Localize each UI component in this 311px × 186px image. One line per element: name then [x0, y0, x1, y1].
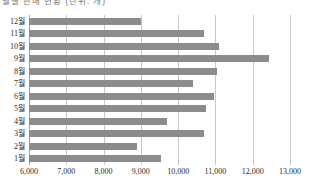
bar — [29, 18, 141, 25]
y-axis-tick-label: 3월 — [14, 129, 25, 138]
bar — [29, 143, 137, 150]
bar-chart: 월별 판매 현황 (단위: 개) 12월11월10월9월8월7월6월5월4월3월… — [0, 0, 311, 186]
bar-series — [29, 15, 290, 165]
y-axis-tick-label: 7월 — [14, 79, 25, 88]
bar-row — [29, 115, 290, 128]
x-axis-tick-label: 9,000 — [132, 167, 150, 177]
bar — [29, 68, 217, 75]
y-axis-tick-label: 9월 — [14, 54, 25, 63]
bar-row — [29, 128, 290, 141]
y-axis-tick-label: 4월 — [14, 117, 25, 126]
bar-row — [29, 90, 290, 103]
y-axis-tick-label: 10월 — [10, 42, 25, 51]
y-axis-tick-label: 11월 — [10, 29, 25, 38]
bar — [29, 93, 214, 100]
bar-row — [29, 65, 290, 78]
x-axis-labels: 6,0007,0008,0009,00010,00011,00012,00013… — [29, 167, 290, 181]
x-axis-tick-label: 12,000 — [242, 167, 264, 177]
y-axis-labels: 12월11월10월9월8월7월6월5월4월3월2월1월 — [0, 15, 27, 165]
bar-row — [29, 53, 290, 66]
chart-title: 월별 판매 현황 (단위: 개) — [0, 0, 311, 6]
bar-row — [29, 140, 290, 153]
bar-row — [29, 28, 290, 41]
plot-area — [29, 15, 290, 165]
gridline — [290, 15, 291, 165]
x-axis-tick-label: 10,000 — [167, 167, 189, 177]
bar — [29, 80, 193, 87]
bar — [29, 130, 204, 137]
bar-row — [29, 40, 290, 53]
bar — [29, 43, 219, 50]
y-axis-tick-label: 2월 — [14, 142, 25, 151]
bar-row — [29, 78, 290, 91]
bar — [29, 118, 167, 125]
y-axis-tick-label: 6월 — [14, 92, 25, 101]
x-axis-tick-label: 11,000 — [205, 167, 227, 177]
bar — [29, 30, 204, 37]
y-axis-tick-label: 8월 — [14, 67, 25, 76]
y-axis-tick-label: 1월 — [14, 154, 25, 163]
bar — [29, 55, 269, 62]
x-axis-tick-label: 8,000 — [95, 167, 113, 177]
bar-row — [29, 103, 290, 116]
bar-row — [29, 153, 290, 166]
chart-title-strip: 월별 판매 현황 (단위: 개) — [0, 0, 311, 7]
bar — [29, 105, 206, 112]
bar-row — [29, 15, 290, 28]
x-axis-tick-label: 13,000 — [279, 167, 301, 177]
bar — [29, 155, 161, 162]
x-axis-tick-label: 7,000 — [57, 167, 75, 177]
y-axis-tick-label: 12월 — [10, 17, 25, 26]
y-axis-tick-label: 5월 — [14, 104, 25, 113]
x-axis-tick-label: 6,000 — [20, 167, 38, 177]
